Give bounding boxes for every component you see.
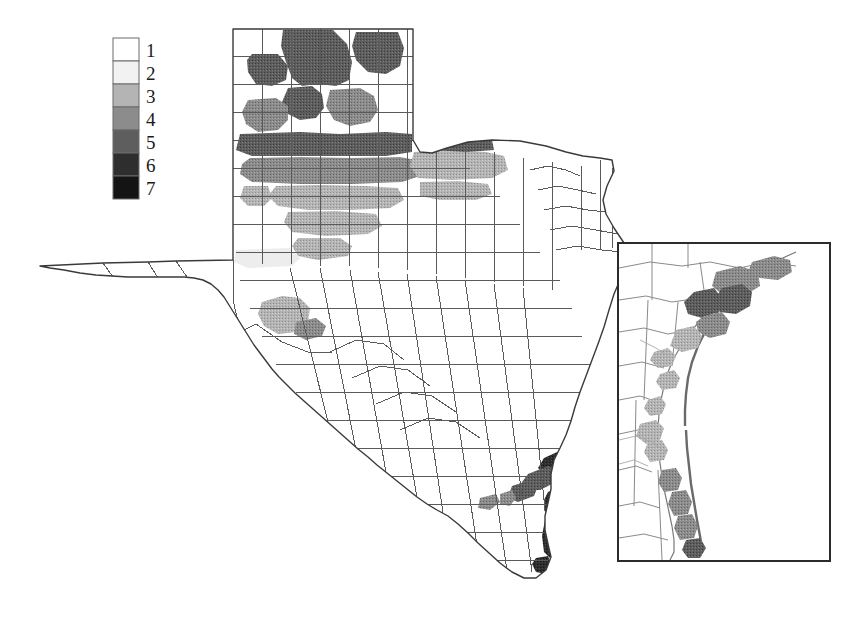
class-legend: 1 2 3 4 5 6 7 bbox=[113, 38, 156, 199]
legend-swatch-6: 6 bbox=[113, 153, 156, 176]
legend-swatch-3: 3 bbox=[113, 84, 156, 107]
legend-label-5: 5 bbox=[146, 132, 156, 153]
legend-label-6: 6 bbox=[146, 155, 156, 176]
legend-swatch-4: 4 bbox=[113, 107, 156, 130]
legend-swatch-2: 2 bbox=[113, 61, 156, 84]
legend-label-2: 2 bbox=[146, 63, 156, 84]
legend-label-7: 7 bbox=[146, 178, 156, 199]
legend-swatch-7: 7 bbox=[113, 176, 156, 199]
figure-root: 1 2 3 4 5 6 7 bbox=[0, 0, 854, 622]
legend-swatch-1: 1 bbox=[113, 38, 156, 61]
legend-label-1: 1 bbox=[146, 40, 156, 61]
gulf-coast-inset bbox=[618, 243, 830, 561]
legend-swatch-5: 5 bbox=[113, 130, 156, 153]
texas-choropleth-map: 1 2 3 4 5 6 7 bbox=[0, 0, 854, 622]
legend-label-3: 3 bbox=[146, 86, 156, 107]
legend-label-4: 4 bbox=[146, 109, 156, 130]
